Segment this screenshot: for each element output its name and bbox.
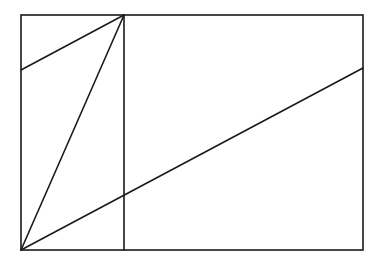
diagram-canvas	[0, 0, 384, 263]
line-segments	[21, 15, 363, 250]
diagonal-left-upper-line	[21, 15, 124, 70]
geometric-diagram	[0, 0, 384, 263]
diagonal-steep-line	[21, 15, 124, 250]
diagonal-long-line	[21, 68, 363, 250]
